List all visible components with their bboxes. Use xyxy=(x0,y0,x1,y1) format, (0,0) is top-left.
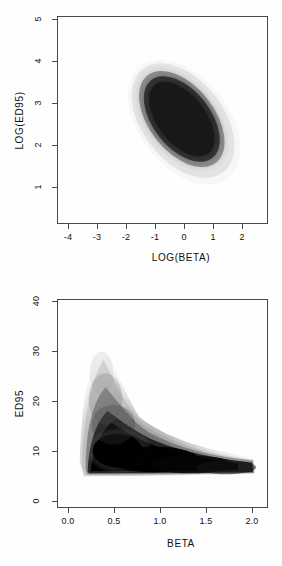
x-ticklabel-log: -3 xyxy=(82,232,112,242)
y-ticklabel-natural: 40 xyxy=(31,289,41,313)
x-tick-log xyxy=(68,224,69,229)
y-ticklabel-natural: 20 xyxy=(31,389,41,413)
x-tick-natural xyxy=(68,508,69,513)
x-axis-title-log: LOG(BETA) xyxy=(0,252,282,263)
figure-page: 5 4 3 2 1 -4 -3 -2 -1 0 1 2 LOG(BETA) LO… xyxy=(0,0,282,566)
x-tick-log xyxy=(155,224,156,229)
density-cloud-log xyxy=(58,17,267,223)
x-ticklabel-natural: 1.5 xyxy=(191,516,221,526)
y-ticklabel-log: 1 xyxy=(33,175,43,199)
plot-area-log xyxy=(57,16,268,224)
y-tick-log xyxy=(52,103,57,104)
y-tick-log xyxy=(52,145,57,146)
x-ticklabel-log: 2 xyxy=(227,232,257,242)
x-ticklabel-natural: 2.0 xyxy=(237,516,267,526)
x-tick-log xyxy=(242,224,243,229)
y-tick-natural xyxy=(52,401,57,402)
y-ticklabel-log: 4 xyxy=(33,49,43,73)
x-ticklabel-log: -1 xyxy=(140,232,170,242)
y-ticklabel-log: 3 xyxy=(33,91,43,115)
x-tick-log xyxy=(126,224,127,229)
y-axis-title-natural: ED95 xyxy=(14,379,25,429)
x-ticklabel-log: -2 xyxy=(111,232,141,242)
x-ticklabel-log: -4 xyxy=(53,232,83,242)
x-tick-natural xyxy=(252,508,253,513)
x-ticklabel-log: 0 xyxy=(169,232,199,242)
y-ticklabel-natural: 30 xyxy=(31,339,41,363)
chart-panel-natural: 40 30 20 10 0 0.0 0.5 1.0 1.5 2.0 BETA E… xyxy=(0,283,282,566)
x-ticklabel-log: 1 xyxy=(198,232,228,242)
plot-area-natural xyxy=(57,299,268,508)
x-axis-title-natural: BETA xyxy=(0,538,282,549)
y-tick-log xyxy=(52,187,57,188)
x-ticklabel-natural: 0.0 xyxy=(53,516,83,526)
y-axis-title-log: LOG(ED95) xyxy=(14,86,25,156)
x-ticklabel-natural: 0.5 xyxy=(99,516,129,526)
y-tick-natural xyxy=(52,301,57,302)
x-tick-natural xyxy=(160,508,161,513)
density-cloud-natural xyxy=(58,300,267,507)
x-tick-log xyxy=(184,224,185,229)
x-tick-natural xyxy=(114,508,115,513)
y-tick-log xyxy=(52,61,57,62)
y-tick-natural xyxy=(52,451,57,452)
y-ticklabel-natural: 10 xyxy=(31,439,41,463)
y-ticklabel-natural: 0 xyxy=(31,489,41,513)
y-tick-natural xyxy=(52,501,57,502)
x-tick-natural xyxy=(206,508,207,513)
chart-panel-log: 5 4 3 2 1 -4 -3 -2 -1 0 1 2 LOG(BETA) LO… xyxy=(0,0,282,283)
y-ticklabel-log: 2 xyxy=(33,133,43,157)
x-ticklabel-natural: 1.0 xyxy=(145,516,175,526)
y-tick-natural xyxy=(52,351,57,352)
y-tick-log xyxy=(52,19,57,20)
x-tick-log xyxy=(97,224,98,229)
x-tick-log xyxy=(213,224,214,229)
y-ticklabel-log: 5 xyxy=(33,7,43,31)
